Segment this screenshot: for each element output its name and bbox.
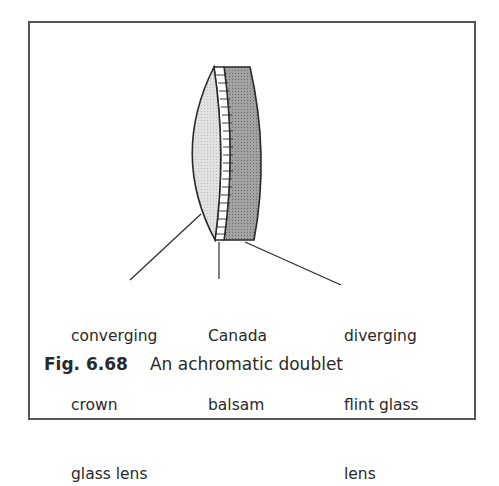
crown-label-line: converging	[71, 325, 157, 348]
crown-label-line: glass lens	[71, 463, 157, 486]
flint-glass-label: diverging flint glass lens	[344, 279, 419, 486]
crown-leader-line	[130, 214, 201, 280]
crown-label-line: crown	[71, 394, 157, 417]
figure-caption: Fig. 6.68An achromatic doublet	[44, 354, 343, 374]
flint-label-line: diverging	[344, 325, 419, 348]
crown-glass-lens	[192, 67, 221, 240]
balsam-label-line: Canada	[208, 325, 267, 348]
balsam-label-line: balsam	[208, 394, 267, 417]
figure-number: Fig. 6.68	[44, 354, 128, 374]
figure-title: An achromatic doublet	[150, 354, 343, 374]
flint-label-line: flint glass	[344, 394, 419, 417]
crown-glass-label: converging crown glass lens	[71, 279, 157, 486]
flint-label-line: lens	[344, 463, 419, 486]
